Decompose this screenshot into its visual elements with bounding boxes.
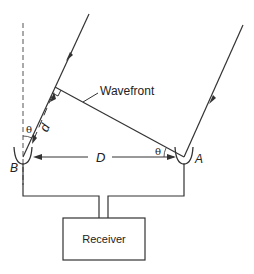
angle-b-arc <box>23 136 32 138</box>
baseline-label: D <box>96 150 105 165</box>
angle-a-arc <box>164 148 166 157</box>
ray-b-direction-arrow <box>66 52 73 61</box>
antenna-a-label: A <box>194 152 203 166</box>
path-difference-label: d <box>36 121 53 134</box>
angle-b-label: θ <box>26 124 32 135</box>
baseline-arrow-left <box>33 154 42 160</box>
receiver-label: Receiver <box>82 233 126 245</box>
antenna-a-dish <box>175 147 193 164</box>
baseline-arrow-right <box>167 154 176 160</box>
interferometer-diagram: Wavefront d θ D θ B A Receiver <box>0 0 254 274</box>
wavefront-leader <box>83 93 98 102</box>
cable-a <box>108 164 184 218</box>
angle-a-label: θ <box>155 146 161 157</box>
ray-to-a <box>184 25 243 157</box>
wavefront-label: Wavefront <box>100 84 155 98</box>
antenna-b-label: B <box>10 161 18 175</box>
cable-b <box>23 164 99 218</box>
